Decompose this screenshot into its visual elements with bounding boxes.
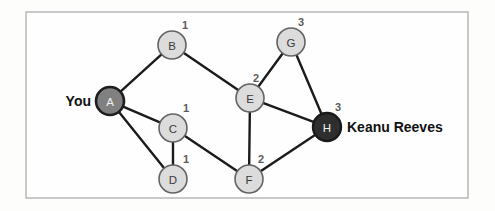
edge-weight-f: 2 [258,153,264,165]
edge-weight-h: 3 [335,101,341,113]
graph-node-h[interactable]: H [313,113,341,141]
node-label-c: C [169,123,177,135]
graph-node-g[interactable]: G [277,28,305,56]
graph-node-c[interactable]: C [159,114,187,142]
annotation-keanu-reeves: Keanu Reeves [347,119,443,135]
node-label-f: F [245,174,252,186]
graph-edge-e-f [249,111,250,166]
node-label-h: H [323,122,331,134]
graph-node-f[interactable]: F [235,165,263,193]
node-label-g: G [287,37,296,49]
graph-diagram: AB1C1D1E2F2G3H3 YouKeanu Reeves [0,0,495,211]
annotation-you: You [66,93,91,109]
graph-node-e[interactable]: E [236,84,264,112]
edge-weight-e: 2 [253,72,259,84]
edge-weight-g: 3 [298,16,304,28]
edge-weight-c: 1 [183,102,189,114]
figure-root: AB1C1D1E2F2G3H3 YouKeanu Reeves [0,0,495,211]
edge-weight-d: 1 [183,153,189,165]
node-label-a: A [106,96,114,108]
node-label-b: B [168,40,176,52]
graph-node-b[interactable]: B [158,31,186,59]
node-label-e: E [246,93,254,105]
edge-weight-b: 1 [182,19,188,31]
graph-node-d[interactable]: D [159,165,187,193]
graph-node-a[interactable]: A [96,87,124,115]
node-label-d: D [169,174,177,186]
